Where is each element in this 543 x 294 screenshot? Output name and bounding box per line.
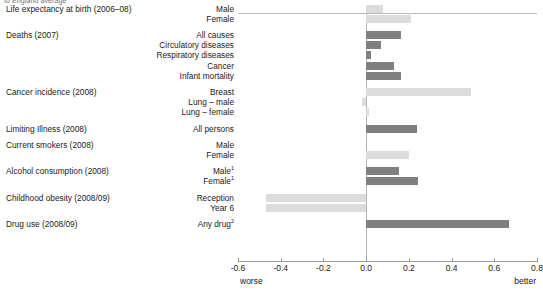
item-label: Lung – male bbox=[6, 97, 234, 107]
x-axis-tick-label: 0.4 bbox=[446, 263, 458, 273]
x-axis-tick bbox=[323, 258, 324, 262]
axis-better-label: better bbox=[514, 276, 536, 286]
bar bbox=[366, 108, 369, 116]
x-axis-tick-label: -0.4 bbox=[273, 263, 288, 273]
plot-area bbox=[238, 14, 537, 261]
bar bbox=[366, 125, 417, 133]
item-label: Infant mortality bbox=[6, 71, 234, 81]
item-label: Female bbox=[6, 14, 234, 24]
item-label: Male bbox=[6, 4, 234, 14]
x-axis-tick bbox=[366, 258, 367, 262]
bar bbox=[366, 62, 394, 70]
footnote-marker: 1 bbox=[231, 176, 234, 182]
item-label: Year 6 bbox=[6, 203, 234, 213]
x-axis-tick-label: 0.6 bbox=[488, 263, 500, 273]
labels-column: Life expectancy at birth (2006–08)MaleFe… bbox=[0, 0, 234, 294]
bar bbox=[366, 31, 401, 39]
x-axis-tick-label: 0.0 bbox=[360, 263, 372, 273]
x-axis-tick-label: 0.8 bbox=[531, 263, 543, 273]
bar bbox=[366, 41, 381, 49]
bar bbox=[366, 15, 411, 23]
x-axis-tick-label: -0.6 bbox=[231, 263, 246, 273]
item-label: Circulatory diseases bbox=[6, 40, 234, 50]
x-axis-tick bbox=[494, 258, 495, 262]
bar bbox=[266, 204, 366, 212]
item-label: Male bbox=[6, 140, 234, 150]
footnote-marker: 2 bbox=[231, 218, 234, 224]
item-label: Respiratory diseases bbox=[6, 50, 234, 60]
x-axis-tick-label: 0.2 bbox=[403, 263, 415, 273]
bar bbox=[266, 194, 366, 202]
bar bbox=[366, 220, 509, 228]
bar bbox=[366, 151, 409, 159]
x-axis-tick bbox=[238, 258, 239, 262]
footnote-marker: 1 bbox=[231, 165, 234, 171]
x-axis-line bbox=[238, 261, 537, 262]
bar bbox=[366, 167, 399, 175]
bar bbox=[366, 88, 471, 96]
bar bbox=[366, 51, 371, 59]
item-label: Female1 bbox=[6, 176, 234, 186]
item-label: Male1 bbox=[6, 166, 234, 176]
bar bbox=[362, 98, 366, 106]
x-axis-tick bbox=[281, 258, 282, 262]
x-axis-tick-label: -0.2 bbox=[316, 263, 331, 273]
bar bbox=[366, 72, 401, 80]
item-label: Reception bbox=[6, 193, 234, 203]
item-label: All persons bbox=[6, 124, 234, 134]
item-label: Lung – female bbox=[6, 107, 234, 117]
bar bbox=[366, 5, 383, 13]
bar bbox=[366, 177, 418, 185]
item-label: Female bbox=[6, 150, 234, 160]
item-label: Cancer bbox=[6, 61, 234, 71]
item-label: Breast bbox=[6, 87, 234, 97]
x-axis-tick bbox=[537, 258, 538, 262]
item-label: Any drug2 bbox=[6, 219, 234, 229]
x-axis-tick bbox=[409, 258, 410, 262]
axis-worse-label: worse bbox=[240, 276, 263, 286]
item-label: All causes bbox=[6, 30, 234, 40]
x-axis-tick bbox=[452, 258, 453, 262]
